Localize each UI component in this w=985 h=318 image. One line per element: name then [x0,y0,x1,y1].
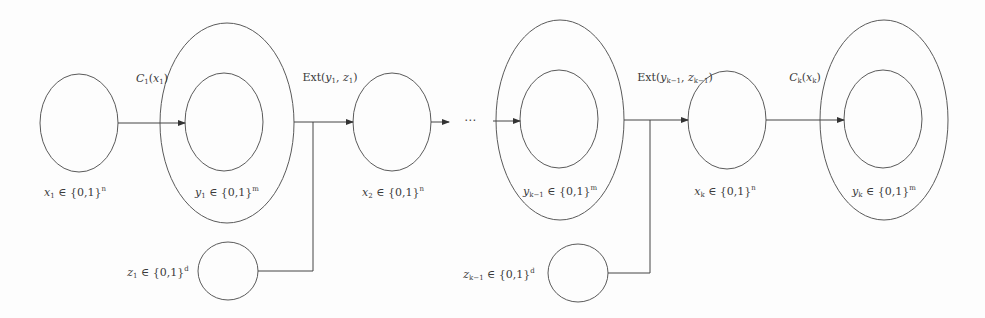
edge-label-c1: C1(x1) [136,73,168,86]
node-yk-inner-circle [844,70,922,168]
node-label-yk: yk ∈ {0,1}m [852,185,916,199]
diagram-canvas: C1(x1) Ext(y1, z1) ⋯ Ext(yk−1, zk−1) Ck(… [0,0,985,318]
edge-z1-to-ext-connector [258,122,313,271]
node-y1-inner-circle [185,73,263,171]
node-ykm1-inner-circle [520,70,598,168]
edge-label-ext-k-1: Ext(yk−1, zk−1) [637,72,712,85]
node-label-ykm1: yk−1 ∈ {0,1}m [523,185,597,199]
node-z1-circle [198,242,258,300]
edge-zkm1-to-ext-connector [608,120,650,273]
node-label-x1: x1 ∈ {0,1}n [44,186,106,200]
node-label-y1: y1 ∈ {0,1}m [195,186,259,200]
node-label-zkm1: zk−1 ∈ {0,1}d [463,268,535,282]
edge-label-ck: Ck(xk) [789,72,821,85]
node-xk-circle [688,71,766,169]
edge-label-ext-1: Ext(y1, z1) [302,72,357,85]
node-x2-circle [353,73,431,171]
node-x1-circle [40,74,118,172]
node-label-z1: z1 ∈ {0,1}d [127,266,188,280]
node-label-x2: x2 ∈ {0,1}n [362,186,424,200]
node-label-xk: xk ∈ {0,1}n [694,185,756,199]
ellipsis-dots: ⋯ [464,113,476,127]
node-zkm1-circle [548,244,608,302]
